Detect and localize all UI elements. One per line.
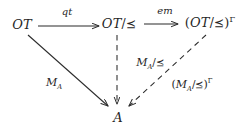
node-ot-quotient-gamma: (OT/⪯)Γ — [185, 16, 236, 29]
edge-label-ma: MA — [46, 77, 62, 88]
edge-label-gamma-base: M — [176, 78, 187, 91]
edge-label-em-text: em — [157, 5, 172, 16]
edge-ma-quotient-gamma — [129, 35, 206, 106]
edge-label-ma-quotient-relation: /⪯ — [152, 56, 164, 68]
node-ot-quotient-base: OT — [102, 16, 122, 31]
node-ot-quotient-relation: /⪯ — [122, 17, 137, 31]
commutative-diagram: OT OT/⪯ (OT/⪯)Γ A qt em MA MA/⪯ (MA/⪯)Γ — [0, 0, 244, 133]
node-a: A — [113, 111, 123, 124]
edge-ma — [28, 35, 108, 106]
node-ot: OT — [12, 18, 32, 31]
node-gamma-relation: /⪯ — [210, 16, 225, 30]
node-ot-quotient: OT/⪯ — [102, 17, 136, 30]
node-a-label: A — [113, 110, 123, 125]
node-gamma-superscript: Γ — [230, 15, 236, 24]
edge-label-em: em — [157, 6, 172, 16]
node-ot-label: OT — [12, 17, 32, 32]
edge-label-gamma-superscript: Γ — [208, 77, 213, 85]
edge-label-qt-text: qt — [62, 6, 72, 17]
edge-label-gamma-relation: /⪯ — [192, 78, 204, 90]
edge-label-qt: qt — [62, 7, 72, 17]
edge-label-ma-quotient: MA/⪯ — [136, 57, 164, 68]
edge-label-ma-quotient-base: M — [136, 56, 147, 69]
node-gamma-base: OT — [190, 15, 210, 30]
edge-label-ma-base: M — [46, 76, 57, 89]
edge-label-ma-quotient-gamma: (MA/⪯)Γ — [171, 79, 212, 90]
edge-label-ma-subscript: A — [57, 83, 62, 91]
